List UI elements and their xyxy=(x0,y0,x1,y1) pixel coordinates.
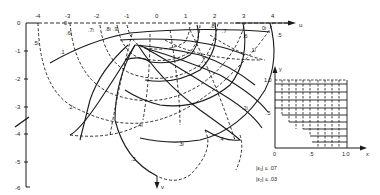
label-3i: .3i xyxy=(178,141,184,147)
inset-y-tick-05: .5 xyxy=(266,110,271,116)
u-tick-2: 2 xyxy=(213,13,217,19)
label-1: .1 xyxy=(60,49,65,55)
u-tick-4: 4 xyxy=(271,13,275,19)
label-5: .5 xyxy=(277,32,282,38)
label-9i: .9i xyxy=(113,26,119,32)
inset-x-label: x xyxy=(366,151,369,157)
v-tick-6: -6 xyxy=(15,185,21,191)
u-tick-m3: -3 xyxy=(65,13,71,19)
v-axis-ticks: 0 -1 -2 -3 -4 -5 -6 xyxy=(15,20,21,191)
u-tick-m2: -2 xyxy=(94,13,100,19)
label-3: .3 xyxy=(131,156,136,162)
eps2-bound: |ε₂| ≤ .03 xyxy=(256,176,277,182)
inset-y-tick-1: 1.0 xyxy=(264,77,272,83)
v-tick-4: -4 xyxy=(15,131,21,137)
label-4i: .4i xyxy=(137,122,143,128)
v-direction-arrow: v xyxy=(155,176,165,190)
inset-grid: y 1.0 .5 0 .5 1.0 x xyxy=(264,66,369,157)
conformal-map-diagram: 0 -1 -2 -3 -4 -5 -6 u -4 -3 -2 -1 0 1 2 … xyxy=(0,0,380,195)
label-7: .7 xyxy=(222,28,227,34)
v-tick-5: -5 xyxy=(15,159,21,165)
inset-x-tick-1: 1.0 xyxy=(342,151,350,157)
u-tick-m4: -4 xyxy=(35,13,41,19)
v-tick-0: 0 xyxy=(17,20,21,26)
label-6: .6 xyxy=(243,33,248,39)
u-tick-m1: -1 xyxy=(124,13,130,19)
v-tick-2: -2 xyxy=(15,76,21,82)
label-5i: .5i xyxy=(33,40,39,46)
label-4: .4 xyxy=(219,136,224,142)
label-0: 0 xyxy=(64,20,67,26)
label-1i: .1i xyxy=(250,47,256,53)
label-6i: .6i xyxy=(66,30,72,36)
dashed-level-curves xyxy=(38,23,273,180)
label-0i: 0i xyxy=(262,25,266,31)
label-8i: .8i xyxy=(105,26,111,32)
inset-y-label: y xyxy=(279,66,282,72)
u-axis-label: u xyxy=(299,22,302,28)
error-bounds: |ε₁| ≤ .07 |ε₂| ≤ .03 xyxy=(256,165,277,182)
v-tick-1: -1 xyxy=(15,48,21,54)
v-tick-3: -3 xyxy=(15,104,21,110)
label-2i: .2i xyxy=(242,105,248,111)
u-tick-0: 0 xyxy=(155,13,159,19)
label-7i: .7i xyxy=(88,27,94,33)
inset-x-tick-05: .5 xyxy=(309,151,314,157)
eps1-bound: |ε₁| ≤ .07 xyxy=(256,165,277,171)
label-8: .8 xyxy=(210,23,215,29)
label-2: .2 xyxy=(68,104,73,110)
u-tick-3: 3 xyxy=(242,13,246,19)
v-axis-label: v xyxy=(161,184,164,190)
inset-x-tick-0: 0 xyxy=(273,151,276,157)
u-tick-1: 1 xyxy=(184,13,188,19)
